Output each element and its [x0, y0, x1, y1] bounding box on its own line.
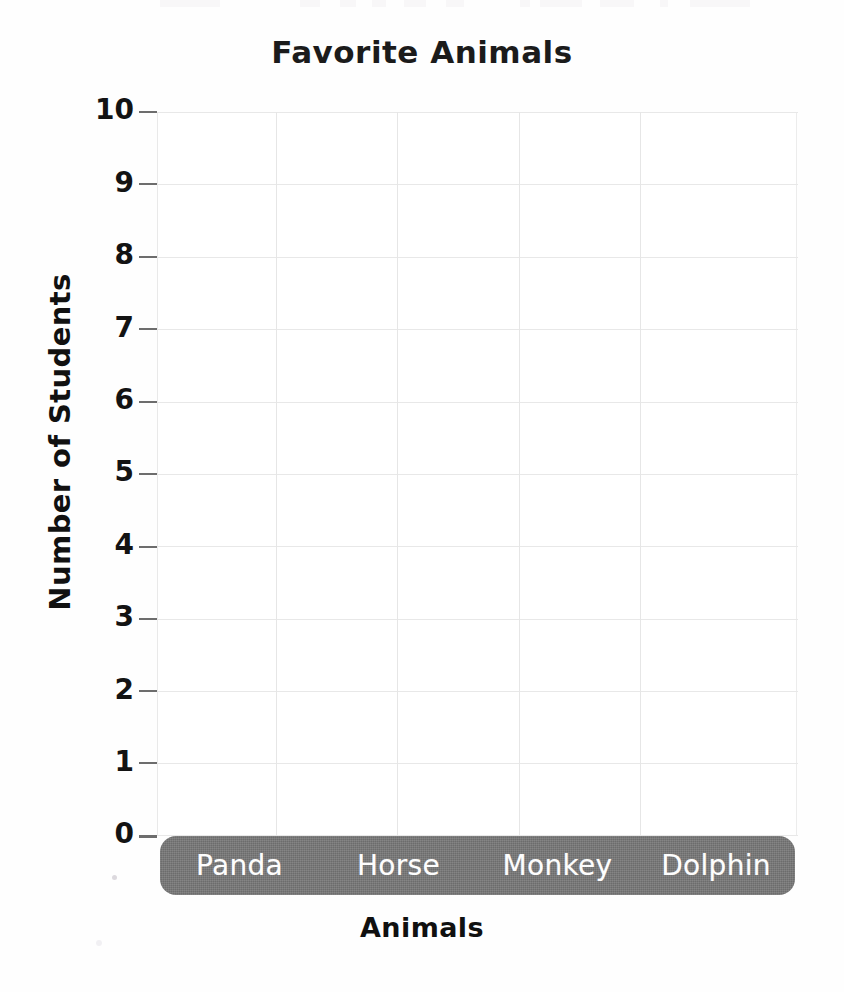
gridline-horizontal [158, 112, 798, 113]
y-axis-tick [139, 183, 157, 185]
y-axis-tick-label-0: 0 [44, 820, 134, 848]
y-axis-tick-label-3: 3 [44, 603, 134, 631]
scan-artifact-streak [540, 0, 582, 7]
y-axis-tick [139, 690, 157, 692]
gridline-horizontal [158, 257, 798, 258]
y-axis-tick-label-5: 5 [44, 458, 134, 486]
y-axis-tick [139, 835, 157, 838]
scan-artifact-streak [660, 0, 668, 7]
y-axis-tick [139, 256, 157, 258]
y-axis-tick-label-4: 4 [44, 531, 134, 559]
y-axis-tick-label-10: 10 [44, 96, 134, 124]
y-axis-tick-label-7: 7 [44, 314, 134, 342]
y-axis-tick-label-8: 8 [44, 241, 134, 269]
y-axis-tick [139, 401, 157, 403]
gridline-horizontal [158, 763, 798, 764]
y-axis-tick [139, 762, 157, 764]
x-axis-category-monkey: Monkey [478, 836, 637, 895]
gridline-horizontal [158, 546, 798, 547]
scan-artifact-streak [300, 0, 320, 7]
x-axis-category-dolphin: Dolphin [637, 836, 795, 895]
y-axis-tick-label-2: 2 [44, 676, 134, 704]
y-axis-tick [139, 546, 157, 548]
gridline-horizontal [158, 329, 798, 330]
scan-artifact-streak [600, 0, 634, 7]
x-axis-title: Animals [0, 912, 844, 943]
y-axis-tick [139, 618, 157, 620]
scan-artifact-streak [520, 0, 530, 7]
scan-artifact-streak [446, 0, 464, 7]
x-axis-category-panda: Panda [160, 836, 319, 895]
y-axis-tick-label-1: 1 [44, 748, 134, 776]
x-axis-category-band: Panda Horse Monkey Dolphin [160, 836, 795, 895]
x-axis-category-horse: Horse [319, 836, 478, 895]
scan-artifact-streak [340, 0, 356, 7]
gridline-vertical [276, 112, 277, 836]
gridline-vertical [397, 112, 398, 836]
gridline-horizontal [158, 402, 798, 403]
scan-artifact-speck [112, 875, 117, 880]
y-axis-tick [139, 111, 157, 113]
bar-chart-worksheet: Favorite Animals Number of Students 10 9… [0, 0, 844, 992]
gridline-vertical [640, 112, 641, 836]
gridline-horizontal [158, 474, 798, 475]
gridline-vertical [519, 112, 520, 836]
gridline-horizontal [158, 184, 798, 185]
scan-artifact-streak [404, 0, 426, 7]
scan-artifact-streak [690, 0, 750, 7]
y-axis-tick [139, 328, 157, 330]
y-axis-tick [139, 473, 157, 475]
gridline-horizontal [158, 691, 798, 692]
scan-artifact-streak [372, 0, 386, 7]
scan-artifact-streak [160, 0, 220, 7]
gridline-horizontal [158, 619, 798, 620]
y-axis-tick-label-9: 9 [44, 169, 134, 197]
y-axis-tick-label-6: 6 [44, 386, 134, 414]
chart-title: Favorite Animals [0, 34, 844, 70]
plot-area [157, 112, 797, 836]
